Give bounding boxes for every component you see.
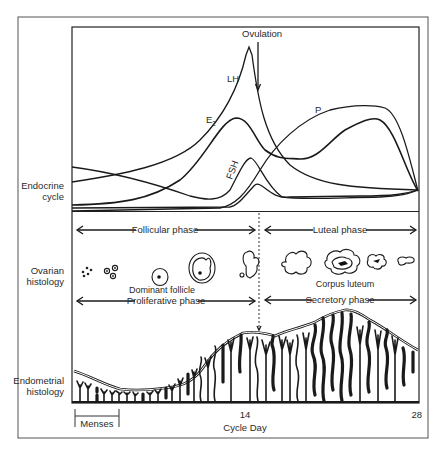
corpus-albicans-icon: [398, 257, 414, 265]
hormone-curves: [72, 47, 418, 211]
endometrial-label-2: histology: [27, 386, 65, 397]
endometrial-label-1: Endometrial: [13, 375, 64, 386]
endometrium-illustration: [72, 310, 419, 402]
dominant-follicle-label: Dominant follicle: [129, 285, 195, 295]
follicular-phase-label: Follicular phase: [132, 224, 199, 235]
fsh-label: FSH: [224, 159, 241, 181]
endocrine-label-2: cycle: [42, 191, 64, 202]
secretory-phase-label: Secretory phase: [305, 294, 374, 305]
ovarian-label-2: histology: [27, 276, 65, 287]
tick-day-14: 14: [240, 409, 251, 420]
lh-curve: [72, 47, 418, 190]
primordial-follicles-icon: [82, 267, 93, 278]
ruptured-follicle-icon: [240, 251, 259, 278]
fsh-curve: [72, 158, 418, 199]
endocrine-label-1: Endocrine: [21, 180, 64, 191]
corpus-luteum-mature-icon: [325, 249, 360, 274]
corpus-luteum-regressing-icon: [367, 255, 386, 270]
primary-follicles-icon: [104, 265, 117, 278]
menstrual-cycle-diagram: LH E2 FSH P Ovulation Endocrine cycle Ov…: [0, 0, 442, 451]
tick-day-28: 28: [411, 409, 422, 420]
x-axis-label: Cycle Day: [223, 422, 267, 433]
menses-label: Menses: [80, 418, 114, 429]
lh-label: LH: [227, 73, 239, 84]
e2-label: E2: [206, 114, 216, 127]
corpus-luteum-early-icon: [282, 251, 311, 274]
dominant-follicle-icon: [152, 269, 168, 286]
progesterone-label: P: [315, 104, 321, 115]
corpus-luteum-label: Corpus luteum: [316, 279, 375, 289]
proliferative-phase-label: Proliferative phase: [127, 295, 206, 306]
luteal-phase-label: Luteal phase: [313, 224, 367, 235]
ovarian-label-1: Ovarian: [31, 265, 64, 276]
mature-follicle-icon: [189, 253, 215, 283]
ovulation-label: Ovulation: [242, 28, 282, 39]
